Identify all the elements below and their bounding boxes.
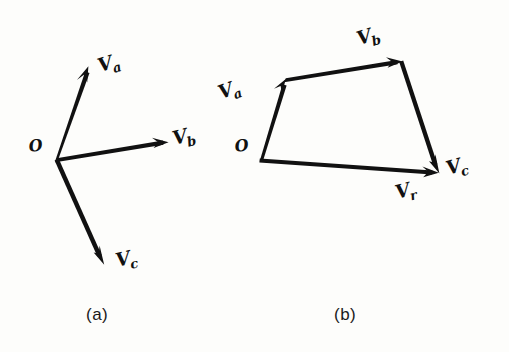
panel-a-origin-label: O	[28, 137, 44, 155]
vector-b-vr	[259, 158, 438, 177]
vector-a-vc	[55, 159, 105, 265]
panel-b-origin-label: O	[234, 137, 250, 155]
panel-a-label-vb-subscript: b	[185, 133, 197, 150]
panel-a-label-vc-subscript: c	[129, 255, 140, 271]
vector-a-vb-shaft	[55, 141, 163, 163]
vector-a-vc-shaft	[55, 159, 102, 257]
vector-b-va	[260, 79, 287, 161]
vector-a-va-shaft	[55, 72, 90, 162]
vector-b-vb	[284, 57, 403, 82]
panel-b-caption: (b)	[334, 306, 356, 323]
panel-b-label-vr: Vr	[393, 178, 418, 202]
panel-a-caption: (a)	[86, 306, 108, 323]
panel-b-vectors	[259, 57, 439, 177]
panel-a-label-vb: Vb	[170, 124, 197, 148]
vector-a-vb	[55, 138, 168, 163]
vector-b-vr-shaft	[259, 158, 432, 174]
panel-a-vectors	[55, 66, 169, 265]
vector-b-va-shaft	[260, 84, 287, 161]
panel-a-label-vc: Vc	[114, 246, 140, 270]
vector-a-va	[55, 66, 90, 161]
vector-b-vc-shaft	[399, 61, 437, 166]
panel-b-label-vb: Vb	[354, 23, 382, 48]
vector-b-vb-shaft	[284, 60, 398, 82]
vector-b-vc	[399, 61, 439, 174]
panel-b-label-vc: Vc	[444, 154, 471, 178]
figure-canvas: .ink { fill: #111111; stroke: none; }	[0, 0, 509, 352]
vector-figure: .ink { fill: #111111; stroke: none; }	[0, 0, 509, 352]
